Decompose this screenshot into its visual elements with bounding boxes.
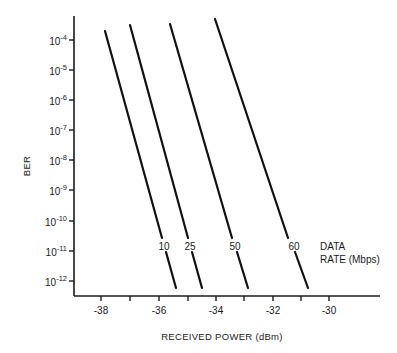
y-tick-label: 10-9 <box>49 183 67 197</box>
series-label-60: 60 <box>288 241 300 252</box>
x-tick-labels: -38 -36 -34 -32 -30 <box>94 305 337 316</box>
y-axis-title: BER <box>21 156 32 176</box>
x-tick-label: -32 <box>266 305 281 316</box>
x-tick-label: -30 <box>322 305 337 316</box>
ber-chart: 10-4 10-5 10-6 10-7 10-8 10-9 10-10 10-1… <box>0 0 397 353</box>
y-tick-labels: 10-4 10-5 10-6 10-7 10-8 10-9 10-10 10-1… <box>45 33 67 288</box>
y-tick-label: 10-5 <box>49 63 67 77</box>
series-label-25: 25 <box>184 241 196 252</box>
y-tick-label: 10-7 <box>49 123 67 137</box>
y-tick-label: 10-10 <box>45 214 67 228</box>
legend-title-line1: DATA <box>320 241 346 252</box>
x-axis-title: RECEIVED POWER (dBm) <box>161 331 283 342</box>
series-label-10: 10 <box>158 241 170 252</box>
y-tick-label: 10-11 <box>46 244 67 258</box>
y-tick-label: 10-12 <box>45 274 67 288</box>
y-tick-label: 10-8 <box>49 153 67 167</box>
series-label-50: 50 <box>229 241 241 252</box>
x-tick-label: -34 <box>209 305 224 316</box>
x-tick-label: -36 <box>152 305 167 316</box>
x-tick-label: -38 <box>94 305 109 316</box>
y-tick-label: 10-4 <box>49 33 67 47</box>
y-tick-label: 10-6 <box>49 93 67 107</box>
legend-title-line2: RATE (Mbps) <box>320 254 380 265</box>
